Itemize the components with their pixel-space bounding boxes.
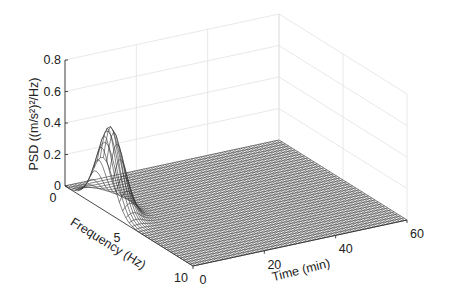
tick-label: 0 [200, 273, 207, 287]
tick-label: 0 [50, 191, 57, 205]
tick-label: 0.6 [44, 85, 61, 99]
tick-label: 10 [174, 271, 188, 285]
tick-label: 60 [410, 227, 424, 241]
tick-label: 40 [339, 242, 353, 256]
tick-label: 0.4 [44, 116, 61, 130]
tick-label: 0.2 [44, 148, 61, 162]
tick-label: 0.8 [44, 53, 61, 67]
surface-plot: 00.20.40.60.805100204060 PSD ((m/s²)²/Hz… [0, 0, 449, 303]
z-axis-label: PSD ((m/s²)²/Hz) [27, 77, 41, 170]
